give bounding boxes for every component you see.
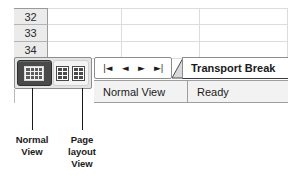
first-sheet-icon[interactable]: |◄ [103,64,112,73]
row-header[interactable]: 33 [14,25,48,42]
callout-page-layout-view: Page layout View [58,134,106,170]
grid-cell[interactable] [48,8,122,25]
grid-icon [24,66,44,81]
callout-line: layout [58,146,106,158]
leader-line-normal-view [32,88,33,130]
leader-line-page-layout-view [82,88,83,130]
status-view-mode: Normal View [94,81,188,102]
sheet-tab-label: Transport Break [191,62,275,74]
grid-cell[interactable] [200,25,288,42]
grid-cell[interactable] [48,25,122,42]
page-icon [72,66,85,81]
grid-cell[interactable] [122,25,200,42]
sheet-tab[interactable]: Transport Break [182,57,288,79]
spreadsheet-grid: 32 33 34 [14,8,288,60]
row-header[interactable]: 32 [14,8,48,25]
viewbar-edge [14,89,92,103]
last-sheet-icon[interactable]: ►| [154,64,163,73]
callout-line: View [58,158,106,170]
callout-line: Page [58,134,106,146]
next-sheet-icon[interactable]: ► [138,64,144,73]
page-layout-view-button[interactable] [53,60,89,86]
sheet-navigation-group: |◄ ◄ ► ►| [94,57,172,79]
view-switcher-panel [14,57,92,89]
page-icon [56,66,69,81]
table-row: 32 [14,8,288,25]
status-state: Ready [188,81,288,102]
workbook-bottom-bar: |◄ ◄ ► ►| Transport Break Normal View Re… [14,57,288,105]
two-pages-icon [56,66,85,81]
normal-view-button[interactable] [17,60,52,86]
table-row: 33 [14,25,288,42]
callout-line: View [8,146,56,158]
status-bar: Normal View Ready [94,80,288,103]
grid-cell[interactable] [200,8,288,25]
grid-cell[interactable] [122,8,200,25]
callout-line: Normal [8,134,56,146]
callout-normal-view: Normal View [8,134,56,158]
previous-sheet-icon[interactable]: ◄ [122,64,128,73]
